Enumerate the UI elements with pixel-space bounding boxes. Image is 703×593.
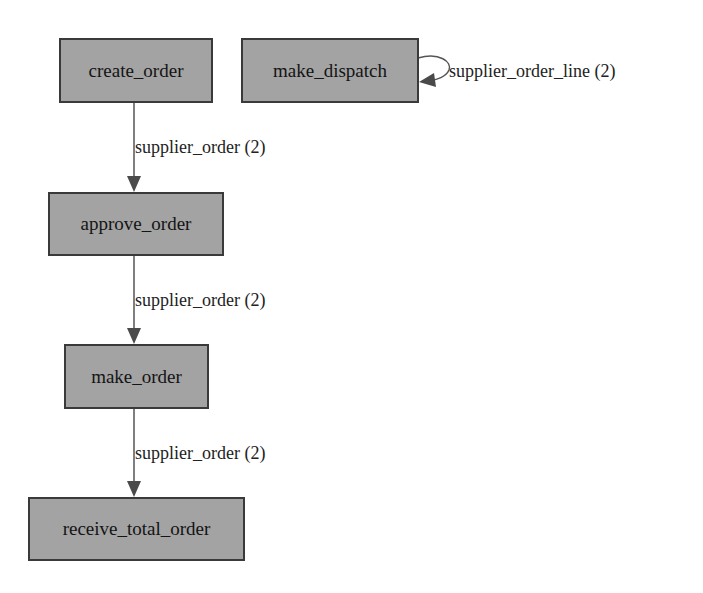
edge-label: supplier_order (2) [135, 291, 265, 309]
arrowhead-icon [127, 481, 141, 497]
node-make-dispatch[interactable]: make_dispatch [241, 38, 419, 103]
arrowhead-icon [127, 176, 141, 192]
node-label: make_dispatch [273, 60, 387, 82]
edge-label: supplier_order (2) [135, 138, 265, 156]
node-label: make_order [91, 366, 182, 388]
arrowhead-icon [419, 73, 436, 87]
node-label: receive_total_order [63, 518, 211, 540]
node-make-order[interactable]: make_order [64, 344, 209, 409]
node-create-order[interactable]: create_order [59, 38, 213, 103]
edge-label: supplier_order (2) [135, 444, 265, 462]
node-receive-total-order[interactable]: receive_total_order [28, 497, 245, 561]
edge-dispatch-self-loop [418, 56, 449, 87]
node-label: create_order [89, 60, 184, 82]
node-approve-order[interactable]: approve_order [48, 192, 224, 256]
edge-label: supplier_order_line (2) [449, 62, 615, 80]
node-label: approve_order [81, 213, 192, 235]
arrowhead-icon [127, 328, 141, 344]
